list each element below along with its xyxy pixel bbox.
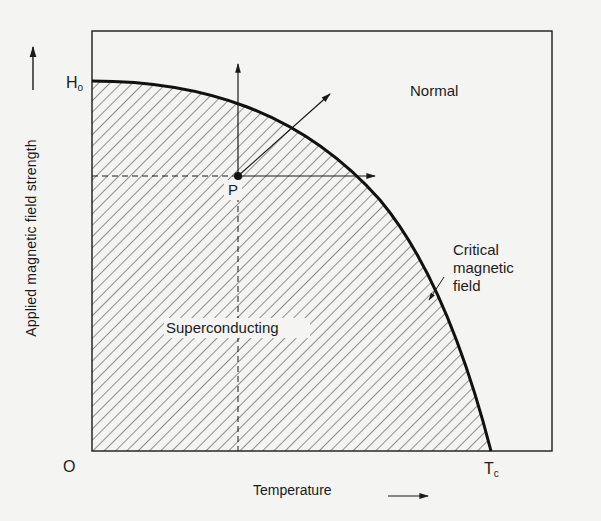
- critical-field-line3: field: [453, 277, 514, 295]
- critical-field-label: Critical magnetic field: [453, 241, 514, 295]
- point-p-label: P: [228, 181, 238, 198]
- region-superconducting-label: Superconducting: [166, 319, 279, 336]
- critical-field-line1: Critical: [453, 241, 514, 259]
- region-normal-label: Normal: [410, 82, 458, 99]
- tc-subscript: c: [494, 468, 499, 479]
- h0-subscript: o: [78, 82, 84, 93]
- tc-text: T: [484, 460, 494, 477]
- y-axis-label: Applied magnetic field strength: [23, 123, 39, 353]
- superconducting-region: [92, 81, 491, 451]
- x-axis-label: Temperature: [253, 482, 332, 498]
- critical-field-line2: magnetic: [453, 259, 514, 277]
- point-p-marker: [234, 172, 242, 180]
- tc-label: Tc: [484, 460, 499, 479]
- origin-label: O: [63, 458, 75, 476]
- h0-text: H: [66, 74, 78, 91]
- h0-label: Ho: [66, 74, 83, 93]
